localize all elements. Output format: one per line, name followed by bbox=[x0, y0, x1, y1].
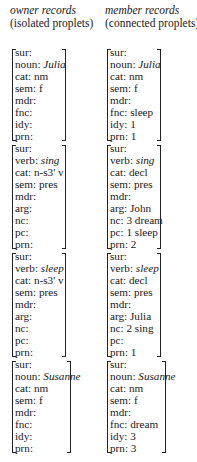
attribute-text: arg: Julia bbox=[110, 310, 151, 322]
attribute-line: cat: nm bbox=[110, 70, 176, 82]
attribute-line: prn: 1 bbox=[110, 130, 176, 142]
attribute-text: arg: bbox=[15, 310, 32, 322]
proplet-record: sur:noun: Susannecat: nmsem: fmdr:fnc:id… bbox=[12, 358, 81, 454]
attribute-text: mdr: bbox=[15, 94, 36, 106]
attribute-line: pc: bbox=[110, 334, 176, 346]
attribute-line: sur: bbox=[110, 250, 176, 262]
attribute-text: verb: bbox=[110, 154, 136, 166]
proplet-record: sur:verb: sleepcat: declsem: presmdr:arg… bbox=[107, 250, 176, 358]
attribute-text: mdr: bbox=[15, 298, 36, 310]
attribute-line: pc: bbox=[15, 334, 81, 346]
proplet-record: sur:noun: Juliacat: nmsem: fmdr:fnc: sle… bbox=[107, 46, 176, 142]
left-bracket bbox=[12, 361, 16, 453]
attribute-line: mdr: bbox=[15, 94, 81, 106]
attribute-text: sur: bbox=[110, 358, 127, 370]
attribute-line: verb: sleep bbox=[15, 262, 81, 274]
attribute-text: idy: 1 bbox=[110, 118, 136, 130]
column-subtitle: (connected proplets) bbox=[105, 17, 197, 30]
attribute-line: pc: 1 sleep bbox=[110, 226, 176, 238]
left-bracket bbox=[12, 253, 16, 357]
left-bracket bbox=[107, 145, 111, 249]
attribute-text: mdr: bbox=[110, 190, 131, 202]
attribute-value: sing bbox=[136, 154, 155, 166]
attribute-text: idy: bbox=[15, 430, 32, 442]
attribute-text: sur: bbox=[110, 46, 127, 58]
attribute-text: sem: f bbox=[15, 394, 43, 406]
attribute-text: noun: bbox=[110, 58, 138, 70]
attribute-line: prn: 2 bbox=[110, 238, 176, 250]
attribute-line: arg: Julia bbox=[110, 310, 176, 322]
record-stack: sur:noun: Juliacat: nmsem: fmdr:fnc: sle… bbox=[107, 46, 176, 454]
attribute-line: verb: sing bbox=[15, 154, 81, 166]
attribute-line: sem: f bbox=[110, 82, 176, 94]
attribute-line: sur: bbox=[110, 142, 176, 154]
attribute-line: nc: bbox=[15, 214, 81, 226]
attribute-line: mdr: bbox=[110, 190, 176, 202]
attribute-line: sem: pres bbox=[15, 178, 81, 190]
attribute-line: cat: decl bbox=[110, 274, 176, 286]
attribute-text: sur: bbox=[15, 142, 32, 154]
attribute-text: nc: 3 dream bbox=[110, 214, 163, 226]
attribute-line: nc: 3 dream bbox=[110, 214, 176, 226]
attribute-text: cat: nm bbox=[110, 382, 143, 394]
attribute-line: mdr: bbox=[15, 298, 81, 310]
column-header: member records (connected proplets) bbox=[105, 4, 197, 30]
attribute-line: sur: bbox=[15, 250, 81, 262]
attribute-text: arg: John bbox=[110, 202, 151, 214]
column-header: owner records (isolated proplets) bbox=[10, 4, 93, 30]
attribute-text: prn: 3 bbox=[110, 442, 136, 454]
attribute-line: fnc: bbox=[15, 106, 81, 118]
attribute-text: prn: bbox=[15, 442, 33, 454]
attribute-line: pc: bbox=[15, 226, 81, 238]
attribute-text: noun: bbox=[15, 58, 43, 70]
attribute-text: nc: bbox=[15, 322, 29, 334]
attribute-text: sem: pres bbox=[15, 178, 58, 190]
attribute-text: cat: nm bbox=[15, 382, 48, 394]
attribute-text: cat: n-s3' v bbox=[15, 274, 64, 286]
attribute-text: idy: bbox=[15, 118, 32, 130]
attribute-text: sem: pres bbox=[15, 286, 58, 298]
attribute-line: idy: 1 bbox=[110, 118, 176, 130]
attribute-text: verb: bbox=[15, 154, 41, 166]
attribute-text: nc: 2 sing bbox=[110, 322, 154, 334]
right-bracket bbox=[67, 361, 71, 453]
right-bracket bbox=[162, 361, 166, 453]
right-bracket bbox=[157, 253, 161, 357]
attribute-text: prn: 1 bbox=[110, 130, 136, 142]
attribute-value: sing bbox=[41, 154, 60, 166]
left-bracket bbox=[12, 49, 16, 141]
proplet-record: sur:verb: sleepcat: n-s3' vsem: presmdr:… bbox=[12, 250, 81, 358]
proplet-record: sur:verb: singcat: declsem: presmdr:arg:… bbox=[107, 142, 176, 250]
proplet-record: sur:verb: singcat: n-s3' vsem: presmdr:a… bbox=[12, 142, 81, 250]
attribute-line: cat: n-s3' v bbox=[15, 274, 81, 286]
left-bracket bbox=[107, 361, 111, 453]
attribute-line: arg: bbox=[15, 310, 81, 322]
attribute-line: fnc: sleep bbox=[110, 106, 176, 118]
left-bracket bbox=[107, 49, 111, 141]
attribute-text: mdr: bbox=[15, 190, 36, 202]
attribute-text: cat: decl bbox=[110, 274, 148, 286]
attribute-text: cat: decl bbox=[110, 166, 148, 178]
attribute-line: verb: sleep bbox=[110, 262, 176, 274]
attribute-line: noun: Julia bbox=[110, 58, 176, 70]
attribute-line: sem: f bbox=[15, 82, 81, 94]
attribute-line: sem: pres bbox=[15, 286, 81, 298]
attribute-line: prn: bbox=[15, 238, 81, 250]
attribute-line: sur: bbox=[110, 46, 176, 58]
attribute-value: sleep bbox=[136, 262, 159, 274]
attribute-line: arg: bbox=[15, 202, 81, 214]
attribute-text: sem: pres bbox=[110, 178, 153, 190]
attribute-text: mdr: bbox=[15, 406, 36, 418]
right-bracket bbox=[62, 145, 66, 249]
right-bracket bbox=[62, 253, 66, 357]
proplet-record: sur:noun: Susannecat: nmsem: fmdr:fnc: d… bbox=[107, 358, 176, 454]
attribute-text: sur: bbox=[110, 250, 127, 262]
attribute-text: fnc: dream bbox=[110, 418, 158, 430]
attribute-text: sem: f bbox=[15, 82, 43, 94]
attribute-text: sur: bbox=[15, 250, 32, 262]
column-title: owner records bbox=[10, 4, 93, 17]
attribute-text: sur: bbox=[110, 142, 127, 154]
attribute-line: verb: sing bbox=[110, 154, 176, 166]
record-stack: sur:noun: Juliacat: nmsem: fmdr:fnc:idy:… bbox=[12, 46, 81, 454]
attribute-line: mdr: bbox=[110, 94, 176, 106]
